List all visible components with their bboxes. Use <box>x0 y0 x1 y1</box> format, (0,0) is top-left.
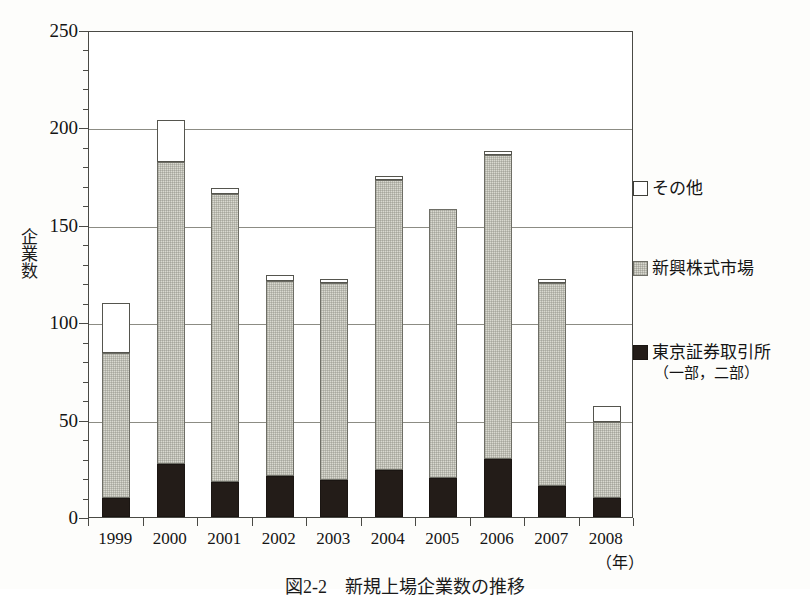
x-tick-label: 2006 <box>467 529 527 549</box>
y-tick-mark <box>79 421 88 422</box>
bar-segment-emerging[interactable] <box>429 209 457 478</box>
bar-segment-tse[interactable] <box>320 480 348 517</box>
legend-label: その他 <box>652 178 703 200</box>
figure-caption: 図2-2 新規上場企業数の推移 <box>0 572 810 598</box>
bar-segment-tse[interactable] <box>102 498 130 517</box>
bar-group[interactable] <box>320 30 348 517</box>
bar-segment-tse[interactable] <box>266 476 294 517</box>
legend-swatch-tse <box>633 345 648 360</box>
plot-area <box>88 31 633 518</box>
y-tick-label: 100 <box>30 312 78 334</box>
bar-group[interactable] <box>157 30 185 517</box>
bar-segment-other[interactable] <box>211 188 239 194</box>
x-tick-label: 2008 <box>576 529 636 549</box>
x-tick-mark <box>524 518 525 526</box>
legend-label: 東京証券取引所（一部，二部） <box>652 342 771 383</box>
bar-group[interactable] <box>593 30 621 517</box>
bar-segment-emerging[interactable] <box>211 194 239 482</box>
bar-segment-emerging[interactable] <box>538 283 566 486</box>
x-tick-label: 2007 <box>521 529 581 549</box>
x-tick-mark <box>415 518 416 526</box>
legend-label: 新興株式市場 <box>652 258 754 280</box>
x-tick-mark <box>306 518 307 526</box>
y-tick-label: 150 <box>30 215 78 237</box>
bar-segment-emerging[interactable] <box>593 422 621 498</box>
bar-segment-other[interactable] <box>593 406 621 422</box>
x-tick-label: 2000 <box>140 529 200 549</box>
bar-group[interactable] <box>538 30 566 517</box>
x-tick-mark <box>197 518 198 526</box>
bar-segment-other[interactable] <box>375 176 403 180</box>
bar-segment-tse[interactable] <box>211 482 239 517</box>
bar-group[interactable] <box>375 30 403 517</box>
bar-group[interactable] <box>266 30 294 517</box>
x-tick-label: 2003 <box>303 529 363 549</box>
y-tick-mark <box>79 128 88 129</box>
bar-segment-tse[interactable] <box>375 470 403 517</box>
legend-sublabel: （一部，二部） <box>652 364 771 383</box>
bar-segment-other[interactable] <box>157 120 185 163</box>
bar-group[interactable] <box>102 30 130 517</box>
legend-entry[interactable]: 東京証券取引所（一部，二部） <box>633 342 771 383</box>
bar-segment-emerging[interactable] <box>375 180 403 470</box>
bar-segment-emerging[interactable] <box>157 162 185 464</box>
y-tick-mark <box>79 518 88 519</box>
bar-segment-other[interactable] <box>320 279 348 283</box>
x-tick-mark <box>88 518 89 526</box>
bar-segment-emerging[interactable] <box>320 283 348 480</box>
bar-segment-other[interactable] <box>484 151 512 155</box>
legend-swatch-other <box>633 181 648 196</box>
bar-segment-tse[interactable] <box>484 459 512 517</box>
bar-group[interactable] <box>484 30 512 517</box>
x-tick-label: 1999 <box>85 529 145 549</box>
bar-segment-emerging[interactable] <box>266 281 294 476</box>
bar-segment-emerging[interactable] <box>484 155 512 459</box>
bar-segment-other[interactable] <box>538 279 566 283</box>
x-tick-mark <box>633 518 634 526</box>
bar-segment-other[interactable] <box>266 275 294 281</box>
bar-segment-emerging[interactable] <box>102 353 130 497</box>
y-tick-mark <box>79 323 88 324</box>
legend-entry[interactable]: 新興株式市場 <box>633 258 754 280</box>
y-tick-label: 0 <box>30 507 78 529</box>
bar-group[interactable] <box>429 30 457 517</box>
y-tick-mark <box>79 226 88 227</box>
y-tick-label: 200 <box>30 117 78 139</box>
x-tick-mark <box>252 518 253 526</box>
x-axis-unit-label: （年） <box>596 549 644 573</box>
bar-group[interactable] <box>211 30 239 517</box>
bar-segment-tse[interactable] <box>593 498 621 517</box>
legend-swatch-emerging <box>633 261 648 276</box>
x-tick-mark <box>470 518 471 526</box>
bar-segment-other[interactable] <box>102 303 130 354</box>
bar-segment-tse[interactable] <box>429 478 457 517</box>
x-tick-mark <box>143 518 144 526</box>
y-tick-label: 250 <box>30 20 78 42</box>
x-tick-label: 2005 <box>412 529 472 549</box>
y-tick-mark <box>79 31 88 32</box>
y-tick-label: 50 <box>30 410 78 432</box>
bar-segment-tse[interactable] <box>538 486 566 517</box>
x-tick-label: 2004 <box>358 529 418 549</box>
x-tick-mark <box>579 518 580 526</box>
x-tick-label: 2002 <box>249 529 309 549</box>
x-tick-label: 2001 <box>194 529 254 549</box>
bar-segment-tse[interactable] <box>157 464 185 517</box>
x-tick-mark <box>361 518 362 526</box>
legend-entry[interactable]: その他 <box>633 178 703 200</box>
